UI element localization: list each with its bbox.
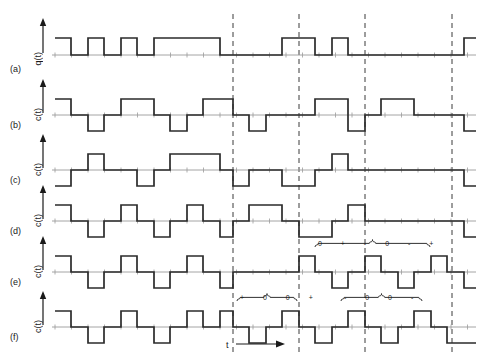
t-axis-label: t <box>226 340 229 350</box>
row-tag-c: (c) <box>10 175 21 185</box>
row-tag-b: (b) <box>10 120 21 130</box>
y-axis-label-e: c(t) <box>33 265 43 278</box>
y-axis-label-a: q(t) <box>33 52 43 66</box>
row-tag-d: (d) <box>10 226 21 236</box>
waveform-figure: (a) (b) (c) (d) (e) (f) q(t) c(t) c(t) c… <box>0 0 481 361</box>
waveform-row-d <box>40 185 476 237</box>
waveform-trace <box>55 154 476 186</box>
waveform-row-c <box>40 134 476 186</box>
annotation-symbols-2: 0 + - 0 - + <box>318 240 442 247</box>
y-axis-label-c: c(t) <box>33 163 43 176</box>
y-axis-label-b: c(t) <box>33 108 43 121</box>
y-axis-arrow-head <box>40 79 46 87</box>
row-tag-f: (f) <box>10 332 19 342</box>
row-tag-a: (a) <box>10 64 21 74</box>
waveform-row-b <box>40 79 476 131</box>
y-axis-arrow-head <box>40 18 46 26</box>
annotation-symbols-1: + 0 0 + <box>240 294 321 301</box>
waveform-trace <box>55 311 476 343</box>
y-axis-arrow-head <box>40 236 46 244</box>
row-tag-e: (e) <box>10 277 21 287</box>
t-axis-arrow-head <box>276 341 285 348</box>
y-axis-arrow-head <box>40 185 46 193</box>
y-axis-label-d: c(t) <box>33 214 43 227</box>
y-axis-arrow-head <box>40 291 46 299</box>
waveform-trace <box>55 38 476 55</box>
y-axis-arrow-head <box>40 134 46 142</box>
waveform-row-a <box>40 18 476 58</box>
y-axis-label-f: c(t) <box>33 320 43 333</box>
annotation-symbols-3: - 0 0 - <box>344 294 422 301</box>
waveform-canvas <box>0 0 481 361</box>
